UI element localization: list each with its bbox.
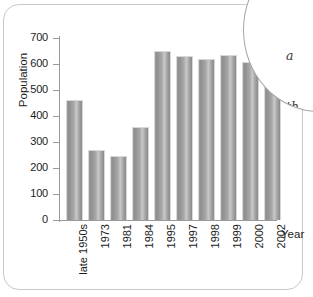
y-tick-500: [53, 90, 59, 91]
bar-1999: [220, 55, 237, 220]
x-tick-label-late-1950s: late 1950s: [77, 224, 89, 275]
bar-1981: [110, 156, 127, 220]
chart-screenshot: Population Year 700 600 500 400 300 200 …: [0, 0, 313, 297]
bar-1997: [176, 56, 193, 220]
plot-area: [60, 38, 264, 220]
y-tick-label-100: 100: [8, 187, 48, 199]
y-tick-300: [53, 142, 59, 143]
x-tick-label-1998: 1998: [209, 224, 221, 248]
y-tick-label-300: 300: [8, 135, 48, 147]
x-tick-label-1997: 1997: [187, 224, 199, 248]
y-tick-label-500: 500: [8, 83, 48, 95]
bar-1973: [88, 150, 105, 220]
bar-1984: [132, 127, 149, 220]
y-tick-200: [53, 168, 59, 169]
y-tick-400: [53, 116, 59, 117]
y-tick-600: [53, 64, 59, 65]
y-tick-label-400: 400: [8, 109, 48, 121]
bar-late-1950s: [66, 100, 83, 220]
x-tick-label-1995: 1995: [165, 224, 177, 248]
speech-line-1: a: [286, 47, 310, 64]
y-tick-700: [53, 38, 59, 39]
x-tick-label-1999: 1999: [231, 224, 243, 248]
bar-1995: [154, 51, 171, 220]
speech-bubble-text: a th No r: [286, 13, 310, 112]
x-tick-label-1984: 1984: [143, 224, 155, 248]
x-axis-line: [59, 220, 277, 221]
speech-line-2: th: [286, 98, 310, 112]
y-tick-label-600: 600: [8, 57, 48, 69]
x-tick-label-1981: 1981: [121, 224, 133, 248]
x-tick-label-2000: 2000: [253, 224, 265, 248]
bar-1998: [198, 59, 215, 220]
y-tick-100: [53, 194, 59, 195]
y-tick-0: [53, 220, 59, 221]
x-tick-label-2002: 2002: [275, 224, 287, 248]
x-tick-label-1973: 1973: [99, 224, 111, 248]
y-tick-label-0: 0: [8, 213, 48, 225]
y-tick-label-700: 700: [8, 31, 48, 43]
y-tick-label-200: 200: [8, 161, 48, 173]
bar-2000: [242, 62, 259, 220]
